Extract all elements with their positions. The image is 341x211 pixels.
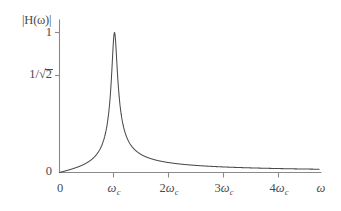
y-tick-label-half-power: 1/√2 bbox=[16, 68, 52, 81]
axes-group bbox=[60, 20, 322, 173]
resonance-magnitude-plot: |H(ω)| 1 1/√2 0 0 ωc 2ωc 3ωc 4ωc ω bbox=[0, 0, 341, 211]
magnitude-response-curve bbox=[60, 33, 320, 173]
x-tick-marks bbox=[114, 173, 279, 178]
sqrt-symbol: √ bbox=[39, 68, 46, 81]
x-tick-label-zero: 0 bbox=[52, 182, 68, 195]
half-power-numerator: 1/ bbox=[29, 67, 39, 81]
x-tick-label-3wc: 3ωc bbox=[209, 182, 239, 196]
x-tick-label-4wc: 4ωc bbox=[264, 182, 294, 196]
y-tick-marks bbox=[55, 33, 60, 76]
x-axis-title: ω bbox=[312, 182, 330, 195]
x-tick-label-2wc: 2ωc bbox=[154, 182, 184, 196]
x-tick-label-wc: ωc bbox=[101, 182, 127, 196]
sqrt-overbar bbox=[45, 69, 53, 70]
y-tick-label-zero: 0 bbox=[38, 165, 52, 178]
y-tick-label-one: 1 bbox=[38, 26, 52, 39]
